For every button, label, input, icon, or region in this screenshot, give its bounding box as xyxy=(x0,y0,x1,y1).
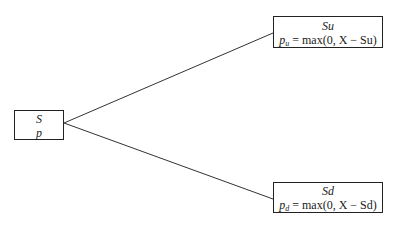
up-payoff: pu = max(0, X − Su) xyxy=(274,33,382,51)
root-price: S xyxy=(15,112,63,126)
root-node: S p xyxy=(14,110,64,140)
root-option-value: p xyxy=(15,126,63,140)
edge-root-to-up xyxy=(64,33,273,123)
down-payoff: pd = max(0, X − Sd) xyxy=(274,198,382,216)
up-node: Su pu = max(0, X − Su) xyxy=(273,16,383,48)
down-price: Sd xyxy=(274,184,382,198)
down-node: Sd pd = max(0, X − Sd) xyxy=(273,182,383,213)
edge-root-to-down xyxy=(64,123,273,199)
down-payoff-expr: = max(0, X − Sd) xyxy=(289,198,377,212)
up-payoff-expr: = max(0, X − Su) xyxy=(289,33,377,47)
up-price: Su xyxy=(274,19,382,33)
